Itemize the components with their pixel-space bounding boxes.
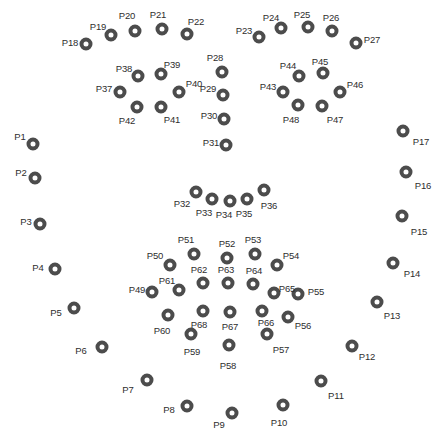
electrode-label-p28: P28 <box>207 53 224 63</box>
electrode-label-p60: P60 <box>154 326 171 336</box>
electrode-marker-p60[interactable] <box>162 309 175 322</box>
electrode-marker-p52[interactable] <box>221 252 234 265</box>
electrode-label-p38: P38 <box>116 64 133 74</box>
electrode-marker-p8[interactable] <box>181 400 194 413</box>
electrode-label-p2: P2 <box>15 168 26 178</box>
electrode-label-p45: P45 <box>312 57 329 67</box>
electrode-marker-p63[interactable] <box>222 277 235 290</box>
electrode-marker-p24[interactable] <box>275 22 288 35</box>
electrode-label-p27: P27 <box>364 35 381 45</box>
electrode-marker-p19[interactable] <box>105 29 118 42</box>
electrode-marker-p15[interactable] <box>396 210 409 223</box>
electrode-label-p57: P57 <box>273 345 290 355</box>
electrode-marker-p7[interactable] <box>141 374 154 387</box>
electrode-label-p11: P11 <box>328 391 344 401</box>
electrode-marker-p29[interactable] <box>217 89 230 102</box>
electrode-marker-p40[interactable] <box>173 86 186 99</box>
electrode-label-p56: P56 <box>295 321 312 331</box>
electrode-label-p36: P36 <box>261 201 278 211</box>
electrode-marker-p49[interactable] <box>146 286 159 299</box>
electrode-marker-p33[interactable] <box>206 193 219 206</box>
electrode-marker-p51[interactable] <box>188 248 201 261</box>
electrode-marker-p1[interactable] <box>27 138 40 151</box>
electrode-marker-p57[interactable] <box>261 328 274 341</box>
electrode-label-p66: P66 <box>258 318 275 328</box>
electrode-marker-p31[interactable] <box>220 139 233 152</box>
electrode-marker-p13[interactable] <box>371 296 384 309</box>
electrode-label-p37: P37 <box>96 84 113 94</box>
electrode-marker-p23[interactable] <box>253 31 266 44</box>
electrode-label-p55: P55 <box>308 287 325 297</box>
electrode-label-p9: P9 <box>213 420 224 430</box>
electrode-marker-p21[interactable] <box>156 23 169 36</box>
electrode-marker-p14[interactable] <box>387 257 400 270</box>
electrode-marker-p50[interactable] <box>164 259 177 272</box>
electrode-label-p19: P19 <box>90 22 107 32</box>
electrode-marker-p36[interactable] <box>258 184 271 197</box>
electrode-label-p67: P67 <box>222 322 239 332</box>
electrode-label-p22: P22 <box>188 17 205 27</box>
electrode-marker-p44[interactable] <box>293 70 306 83</box>
electrode-label-p59: P59 <box>184 347 201 357</box>
electrode-label-p65: P65 <box>279 284 296 294</box>
electrode-marker-p16[interactable] <box>400 166 413 179</box>
electrode-marker-p45[interactable] <box>317 67 330 80</box>
electrode-label-p1: P1 <box>14 132 25 142</box>
electrode-marker-p54[interactable] <box>271 259 284 272</box>
electrode-marker-p64[interactable] <box>247 278 260 291</box>
electrode-marker-p56[interactable] <box>282 311 295 324</box>
electrode-marker-p53[interactable] <box>249 248 262 261</box>
electrode-label-p68: P68 <box>191 320 208 330</box>
electrode-label-p49: P49 <box>129 285 146 295</box>
electrode-label-p30: P30 <box>201 111 218 121</box>
electrode-label-p32: P32 <box>174 199 191 209</box>
electrode-marker-p37[interactable] <box>114 86 127 99</box>
electrode-label-p4: P4 <box>32 263 43 273</box>
electrode-label-p50: P50 <box>147 251 164 261</box>
electrode-marker-p2[interactable] <box>29 172 42 185</box>
electrode-marker-p6[interactable] <box>96 341 109 354</box>
electrode-label-p6: P6 <box>75 346 86 356</box>
electrode-marker-p35[interactable] <box>241 193 254 206</box>
electrode-label-p46: P46 <box>347 80 364 90</box>
electrode-label-p13: P13 <box>384 311 401 321</box>
electrode-marker-p41[interactable] <box>155 101 168 114</box>
electrode-marker-p12[interactable] <box>346 340 359 353</box>
electrode-marker-p42[interactable] <box>131 101 144 114</box>
electrode-marker-p26[interactable] <box>326 25 339 38</box>
electrode-label-p25: P25 <box>294 10 311 20</box>
electrode-marker-p28[interactable] <box>216 66 229 79</box>
electrode-marker-p34[interactable] <box>224 195 237 208</box>
electrode-marker-p4[interactable] <box>49 263 62 276</box>
electrode-marker-p3[interactable] <box>34 218 47 231</box>
electrode-marker-p9[interactable] <box>226 407 239 420</box>
electrode-marker-p66[interactable] <box>256 305 269 318</box>
electrode-label-p21: P21 <box>150 10 167 20</box>
electrode-marker-p38[interactable] <box>132 70 145 83</box>
electrode-label-p53: P53 <box>245 235 262 245</box>
electrode-marker-p11[interactable] <box>315 375 328 388</box>
electrode-marker-p25[interactable] <box>302 21 315 34</box>
electrode-marker-p68[interactable] <box>197 305 210 318</box>
electrode-marker-p62[interactable] <box>197 277 210 290</box>
electrode-label-p35: P35 <box>236 209 253 219</box>
electrode-marker-p48[interactable] <box>292 99 305 112</box>
electrode-marker-p67[interactable] <box>224 306 237 319</box>
electrode-marker-p17[interactable] <box>397 125 410 138</box>
electrode-marker-p20[interactable] <box>129 25 142 38</box>
electrode-label-p47: P47 <box>327 115 344 125</box>
electrode-marker-p46[interactable] <box>334 86 347 99</box>
electrode-marker-p27[interactable] <box>350 37 363 50</box>
electrode-marker-p10[interactable] <box>277 399 290 412</box>
electrode-marker-p18[interactable] <box>80 38 93 51</box>
electrode-marker-p22[interactable] <box>181 28 194 41</box>
electrode-marker-p5[interactable] <box>68 302 81 315</box>
electrode-marker-p43[interactable] <box>277 86 290 99</box>
electrode-label-p58: P58 <box>220 361 237 371</box>
electrode-label-p33: P33 <box>196 208 213 218</box>
electrode-marker-p32[interactable] <box>190 186 203 199</box>
electrode-marker-p30[interactable] <box>218 113 231 126</box>
electrode-label-p17: P17 <box>413 137 430 147</box>
electrode-marker-p58[interactable] <box>223 339 236 352</box>
electrode-marker-p47[interactable] <box>316 100 329 113</box>
